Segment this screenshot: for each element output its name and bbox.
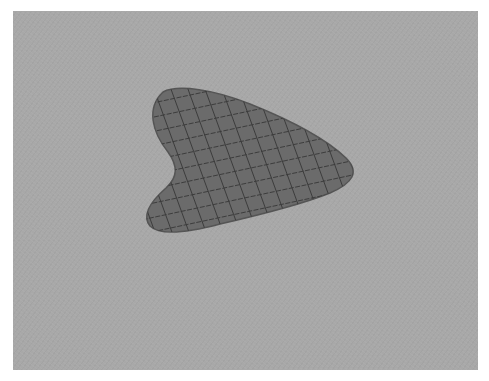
grid-blob-shape xyxy=(0,0,489,381)
blob-fill xyxy=(147,88,353,232)
